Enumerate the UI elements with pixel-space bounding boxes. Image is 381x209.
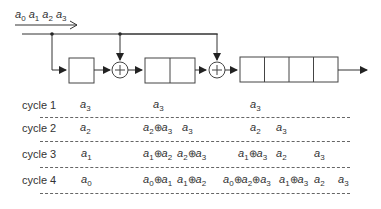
register-value: a2 (250, 122, 261, 136)
register-value: a3 (338, 174, 349, 188)
input-term: a1 (29, 8, 40, 20)
row-divider (40, 167, 350, 168)
register-3 (240, 57, 338, 82)
register-2 (145, 58, 195, 83)
register-value: a1⊕a3 (279, 174, 308, 188)
register-value: a0 (81, 174, 92, 188)
register-value: a2 (314, 174, 325, 188)
row-divider (40, 117, 350, 118)
input-term: a2 (42, 8, 53, 20)
cycle-label: cycle 3 (22, 149, 56, 160)
input-sequence-label: a0 a1 a2 a3 (15, 9, 67, 23)
register-value: a2⊕a3 (143, 122, 172, 136)
input-term: a3 (56, 8, 67, 20)
register-value: a3 (80, 99, 91, 113)
cycle-label: cycle 2 (22, 123, 56, 134)
register-value: a1⊕a2 (143, 148, 172, 162)
register-value: a3 (250, 99, 261, 113)
row-divider (40, 193, 350, 194)
register-value: a2 (276, 148, 287, 162)
register-value: a1⊕a2 (177, 174, 206, 188)
xor-gate-1-icon (112, 62, 128, 78)
register-value: a2⊕a3 (177, 148, 206, 162)
input-term: a0 (15, 8, 26, 20)
row-divider (40, 141, 350, 142)
register-value: a0⊕a2⊕a3 (223, 174, 271, 188)
register-1 (69, 58, 94, 83)
cycle-label: cycle 1 (22, 100, 56, 111)
register-value: a3 (276, 122, 287, 136)
register-value: a0⊕a1 (143, 174, 172, 188)
cycle-label: cycle 4 (22, 175, 56, 186)
register-value: a3 (182, 122, 193, 136)
xor-gate-2-icon (209, 62, 225, 78)
register-value: a1⊕a3 (238, 148, 267, 162)
register-value: a2 (80, 122, 91, 136)
register-value: a3 (153, 99, 164, 113)
register-value: a3 (314, 148, 325, 162)
register-value: a1 (81, 148, 92, 162)
